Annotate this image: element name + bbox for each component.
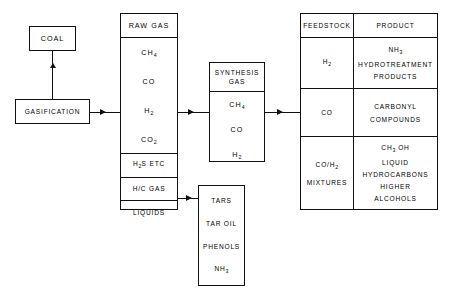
synthesis-gas-box[interactable]: SYNTHESIS GAS CH4 CO H2: [209, 62, 265, 162]
tars-item-nh3: NH3: [199, 261, 244, 278]
gasification-to-raw-gas-arrowhead: [100, 109, 106, 115]
raw-gas-component-ch4-label: CH4: [141, 48, 156, 60]
table-row-1-product-hydrotreatment: HYDROTREATMENT: [358, 60, 433, 69]
table-row-3-feedstock-mixtures: MIXTURES: [307, 178, 347, 187]
raw-gas-header-cell: RAW GAS: [121, 14, 177, 37]
raw-gas-component-co: CO: [121, 72, 177, 94]
raw-gas-component-co2-label: CO2: [141, 135, 157, 147]
table-row: CO/H2 MIXTURES: [301, 137, 353, 209]
raw-gas-box[interactable]: RAW GAS CH4 CO H2 CO2: [120, 13, 178, 210]
synthesis-gas-header-cell: SYNTHESIS GAS: [210, 64, 264, 89]
table-row: CO: [301, 89, 353, 136]
table-row-3-product-ch3oh: CH3 OH: [381, 143, 409, 155]
raw-gas-stream-h2s: H2S ETC: [121, 153, 177, 177]
table-header-product-cell: PRODUCT: [354, 14, 437, 37]
table-row-1-product-products: PRODUCTS: [374, 72, 417, 81]
synthesis-gas-component-ch4-label: CH4: [229, 100, 244, 112]
synthesis-gas-component-h2-label: H2: [232, 150, 241, 162]
raw-gas-stream-hc-gas-label: H/C GAS: [133, 184, 166, 193]
raw-gas-stream-liquids: LIQUIDS: [121, 200, 177, 224]
tars-item-phenols: PHENOLS: [199, 238, 244, 255]
table-row-1-product-nh3: NH3: [388, 45, 402, 57]
tars-item-tar-oil: TAR OIL: [199, 215, 244, 232]
raw-gas-stream-hc-gas: H/C GAS: [121, 177, 177, 200]
tars-item-phenols-label: PHENOLS: [203, 242, 240, 251]
gasification-box[interactable]: GASIFICATION: [15, 99, 90, 124]
coal-box[interactable]: COAL: [29, 26, 76, 51]
table-header-product-label: PRODUCT: [376, 21, 414, 30]
table-row-2-product-compounds: COMPOUNDS: [370, 115, 421, 124]
table-row-2-product-carbonyl: CARBONYL: [374, 102, 417, 111]
synthesis-gas-to-table-arrowhead: [277, 109, 283, 115]
table-row-1-feedstock-label: H2: [323, 57, 332, 69]
table-row-3-product-cell: CH3 OH LIQUID HYDROCARBONS HIGHER ALCOHO…: [354, 137, 437, 209]
table-row-2-feedstock-label: CO: [321, 108, 333, 117]
raw-gas-stream-h2s-label: H2S ETC: [133, 159, 165, 171]
table-row-3-product-hydrocarbons: HYDROCARBONS: [362, 170, 428, 179]
tars-box[interactable]: TARS TAR OIL PHENOLS NH3: [198, 185, 245, 286]
raw-gas-to-synthesis-gas-arrowhead: [188, 109, 194, 115]
synthesis-gas-header-line2: GAS: [229, 77, 245, 86]
gasification-to-coal-arrowhead: [50, 63, 56, 68]
table-header-feedstock-label: FEEDSTOCK: [303, 21, 350, 30]
raw-gas-component-h2-label: H2: [144, 106, 153, 118]
table-row-1-product-cell: NH3 HYDROTREATMENT PRODUCTS: [354, 38, 437, 88]
table-header-feedstock-cell: FEEDSTOCK: [301, 14, 353, 37]
table-row: H2: [301, 38, 353, 88]
feedstock-product-table[interactable]: FEEDSTOCK PRODUCT H2 NH3 HYDROTREATMENT …: [300, 13, 438, 210]
raw-gas-header-label: RAW GAS: [129, 21, 170, 30]
diagram-canvas: COAL GASIFICATION RAW GAS CH4 CO: [0, 0, 454, 294]
synthesis-gas-component-co: CO: [210, 121, 264, 141]
raw-gas-component-co-label: CO: [143, 77, 156, 89]
tars-item-tars-label: TARS: [211, 196, 231, 205]
liquids-to-tars-arrowhead: [186, 195, 192, 201]
tars-item-tar-oil-label: TAR OIL: [206, 219, 237, 228]
table-row-3-product-liquid: LIQUID: [382, 158, 409, 167]
raw-gas-component-co2: CO2: [121, 130, 177, 152]
gasification-label: GASIFICATION: [25, 107, 81, 116]
coal-label: COAL: [41, 34, 65, 43]
synthesis-gas-header-divider: [210, 91, 264, 92]
raw-gas-stream-liquids-label: LIQUIDS: [133, 208, 165, 217]
tars-item-tars: TARS: [199, 192, 244, 209]
table-row-3-product-alcohols: ALCOHOLS: [374, 194, 416, 203]
synthesis-gas-component-co-label: CO: [231, 125, 244, 137]
synthesis-gas-header-line1: SYNTHESIS: [215, 68, 260, 77]
raw-gas-component-h2: H2: [121, 101, 177, 123]
synthesis-gas-component-h2: H2: [210, 146, 264, 166]
raw-gas-header-divider: [121, 37, 177, 38]
table-row-3-product-higher: HIGHER: [380, 182, 410, 191]
synthesis-gas-component-ch4: CH4: [210, 96, 264, 116]
raw-gas-component-ch4: CH4: [121, 43, 177, 65]
table-row-3-feedstock-coh2: CO/H2: [316, 160, 339, 172]
gasification-to-coal-line: [52, 51, 53, 105]
table-row-2-product-cell: CARBONYL COMPOUNDS: [354, 89, 437, 136]
tars-item-nh3-label: NH3: [214, 264, 228, 276]
